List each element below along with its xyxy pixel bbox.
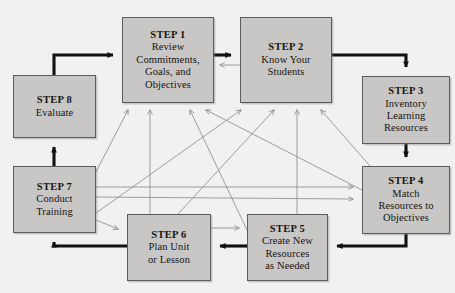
node-step6[interactable]: STEP 6 Plan Unit or Lesson — [127, 214, 211, 281]
node-step5[interactable]: STEP 5 Create New Resources as Needed — [247, 214, 328, 281]
node-step3[interactable]: STEP 3 Inventory Learning Resources — [362, 76, 450, 144]
node-step7[interactable]: STEP 7 Conduct Training — [13, 166, 96, 233]
node-step6-body: Plan Unit or Lesson — [148, 241, 190, 266]
node-step1-label: STEP 1 — [150, 29, 185, 41]
node-step8-body: Evaluate — [36, 107, 74, 119]
node-step3-body: Inventory Learning Resources — [384, 98, 428, 135]
node-step1-body: Review Commitments, Goals, and Objective… — [136, 41, 199, 91]
node-step8[interactable]: STEP 8 Evaluate — [13, 75, 96, 138]
node-step6-label: STEP 6 — [151, 229, 186, 241]
node-step4-label: STEP 4 — [388, 175, 423, 187]
node-step2[interactable]: STEP 2 Know Your Students — [240, 17, 332, 103]
connector-step4-to-step1-feedback — [206, 110, 362, 190]
node-step4[interactable]: STEP 4 Match Resources to Objectives — [362, 166, 450, 234]
node-step2-body: Know Your Students — [261, 54, 310, 79]
connector-step2-to-step3 — [332, 55, 406, 67]
connector-layer — [0, 0, 455, 293]
connector-step8-to-step1 — [54, 55, 113, 75]
node-step3-label: STEP 3 — [388, 85, 423, 97]
node-step2-label: STEP 2 — [268, 41, 303, 53]
node-step1[interactable]: STEP 1 Review Commitments, Goals, and Ob… — [122, 17, 214, 103]
connector-step6-to-step4-feedback — [96, 197, 353, 199]
connector-step4-to-step5 — [337, 234, 406, 246]
connector-step7-to-step1-feedback — [96, 110, 128, 172]
connector-step7-to-step6-feedback — [96, 220, 118, 229]
diagram-canvas: STEP 1 Review Commitments, Goals, and Ob… — [0, 0, 455, 293]
node-step7-label: STEP 7 — [37, 181, 72, 193]
node-step7-body: Conduct Training — [36, 193, 73, 218]
node-step8-label: STEP 8 — [37, 94, 72, 106]
node-step5-label: STEP 5 — [270, 223, 305, 235]
node-step4-body: Match Resources to Objectives — [378, 188, 433, 225]
node-step5-body: Create New Resources as Needed — [262, 235, 313, 272]
connector-step6-to-step7 — [54, 242, 127, 246]
